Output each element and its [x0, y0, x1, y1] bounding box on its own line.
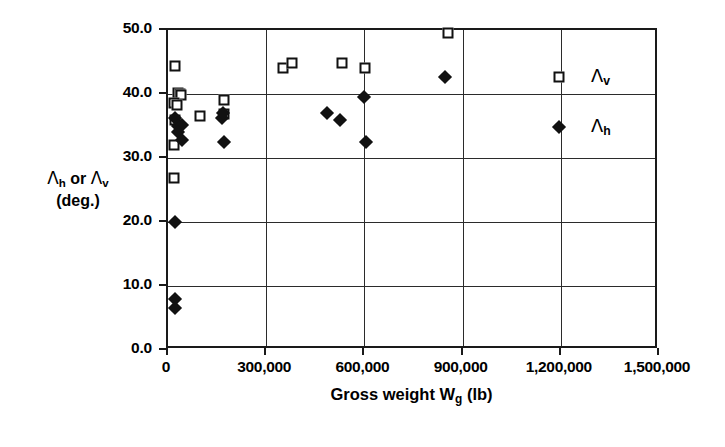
- x-axis-title-sub: g: [455, 392, 462, 406]
- y-axis-tick: [159, 348, 166, 350]
- x-axis-tick: [657, 348, 659, 355]
- y-axis-title-unit: (deg.): [8, 191, 148, 211]
- y-axis-tick: [159, 28, 166, 30]
- gridline-horizontal: [168, 222, 655, 223]
- data-point-lambda-h: [217, 135, 231, 149]
- y-axis-tick-label: 0.0: [92, 339, 152, 357]
- x-axis-tick-label: 0: [162, 358, 170, 376]
- x-axis-tick: [559, 348, 561, 355]
- y-axis-tick-label: 50.0: [92, 19, 152, 37]
- y-axis-tick-label: 40.0: [92, 83, 152, 101]
- legend-marker-open-square: [553, 71, 565, 83]
- data-point-lambda-h: [168, 301, 182, 315]
- data-point-lambda-h: [357, 89, 371, 103]
- y-axis-title-symbols: Λh or Λv: [8, 168, 148, 191]
- x-axis-tick: [362, 348, 364, 355]
- gridline-horizontal: [168, 158, 655, 159]
- data-point-lambda-v: [286, 57, 297, 68]
- data-point-lambda-v: [194, 110, 205, 121]
- y-axis-tick: [159, 284, 166, 286]
- legend-item-lambda-v: Λv: [553, 65, 610, 88]
- x-axis-tick-label: 900,000: [434, 358, 488, 376]
- gridline-vertical: [364, 30, 365, 346]
- y-axis-tick-label: 30.0: [92, 147, 152, 165]
- y-axis-tick: [159, 92, 166, 94]
- x-axis-title-main: Gross weight W: [330, 385, 455, 403]
- x-axis-title: Gross weight Wg (lb): [166, 385, 657, 406]
- gridline-vertical: [266, 30, 267, 346]
- legend-item-lambda-h: Λh: [553, 115, 611, 138]
- data-point-lambda-h: [167, 215, 181, 229]
- legend-label-lambda-v: Λv: [591, 65, 610, 88]
- data-point-lambda-v: [218, 94, 229, 105]
- y-axis-tick-label: 10.0: [92, 275, 152, 293]
- x-axis-tick: [461, 348, 463, 355]
- gridline-horizontal: [168, 94, 655, 95]
- data-point-lambda-v: [171, 99, 182, 110]
- data-point-lambda-h: [332, 113, 346, 127]
- data-point-lambda-v: [360, 62, 371, 73]
- x-axis-title-unit: (lb): [467, 385, 493, 403]
- data-point-lambda-h: [320, 106, 334, 120]
- y-axis-tick: [159, 156, 166, 158]
- data-point-lambda-v: [168, 172, 179, 183]
- data-point-lambda-h: [359, 135, 373, 149]
- legend-label-lambda-h: Λh: [591, 115, 611, 138]
- x-axis-tick-label: 600,000: [335, 358, 389, 376]
- gridline-horizontal: [168, 286, 655, 287]
- data-point-lambda-v: [337, 58, 348, 69]
- x-axis-tick-label: 1,200,000: [526, 358, 592, 376]
- plot-area: Λv Λh: [166, 28, 657, 348]
- legend-marker-filled-diamond: [553, 121, 565, 133]
- data-point-lambda-h: [438, 70, 452, 84]
- y-axis-title: Λh or Λv (deg.): [8, 168, 148, 211]
- x-axis-tick-label: 1,500,000: [624, 358, 690, 376]
- y-axis-tick: [159, 220, 166, 222]
- data-point-lambda-v: [169, 60, 180, 71]
- y-axis-tick-label: 20.0: [92, 211, 152, 229]
- data-point-lambda-v: [442, 27, 453, 38]
- x-axis-tick: [264, 348, 266, 355]
- x-axis-tick: [166, 348, 168, 355]
- x-axis-tick-label: 300,000: [237, 358, 291, 376]
- scatter-chart-figure: Λh or Λv (deg.) Gross weight Wg (lb) 0.0…: [0, 0, 725, 447]
- gridline-vertical: [463, 30, 464, 346]
